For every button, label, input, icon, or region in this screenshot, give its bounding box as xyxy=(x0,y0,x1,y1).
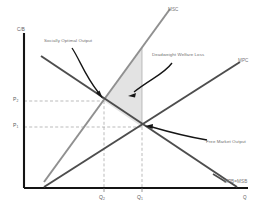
price-tick-p1: P1 xyxy=(13,123,18,128)
externality-diagram: C/B Q P2 P1 Q2 Q1 MSC MPC MPB=MSB Social… xyxy=(0,0,261,214)
free-market-output-arrow xyxy=(152,127,207,140)
msc-curve-label: MSC xyxy=(168,8,179,13)
diagram-canvas xyxy=(0,0,261,214)
quantity-tick-q2: Q2 xyxy=(99,195,105,200)
msc-curve xyxy=(44,9,170,182)
mpb-msb-curve-label: MPB=MSB xyxy=(224,180,247,185)
deadweight-welfare-loss-label: Deadweight Welfare Loss xyxy=(152,53,204,57)
mpc-curve-label: MPC xyxy=(238,59,249,64)
x-axis-label: Q xyxy=(243,196,247,201)
y-axis-label: C/B xyxy=(17,28,25,33)
quantity-tick-q1-sub: 1 xyxy=(141,197,143,201)
price-tick-p2: P2 xyxy=(13,97,18,102)
socially-optimal-output-label: Socially Optimal Output xyxy=(44,39,92,43)
quantity-tick-q1: Q1 xyxy=(137,195,143,200)
deadweight-loss-region xyxy=(104,47,142,127)
quantity-tick-q2-sub: 2 xyxy=(103,197,105,201)
free-market-output-label: Free Market Output xyxy=(206,140,246,144)
